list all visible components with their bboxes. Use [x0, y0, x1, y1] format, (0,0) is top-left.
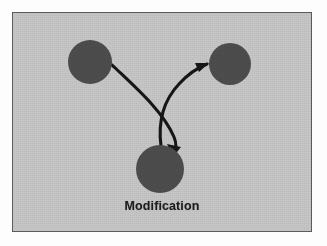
- figure-panel: Modification: [12, 12, 312, 232]
- node-top-left: [68, 40, 112, 84]
- node-bottom: [136, 145, 184, 193]
- figure-root: Modification: [0, 0, 327, 246]
- node-top-right: [209, 43, 251, 85]
- edge-bottom-to-top-right-path: [160, 64, 207, 146]
- edge-top-left-to-bottom-path: [112, 65, 176, 155]
- caption-label: Modification: [13, 199, 311, 213]
- edge-top-left-to-bottom: [112, 65, 181, 157]
- edge-bottom-to-top-right: [160, 63, 209, 146]
